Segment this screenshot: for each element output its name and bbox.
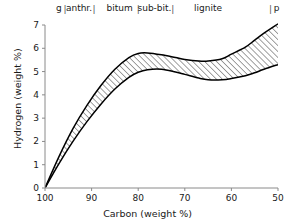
y-tick-label: 3 [25, 113, 39, 123]
y-axis-title: Hydrogen (weight %) [12, 48, 23, 149]
y-tick-label: 7 [25, 20, 39, 30]
y-tick-label: 0 [25, 183, 39, 193]
y-tick-label: 2 [25, 136, 39, 146]
x-tick-label: 100 [32, 193, 58, 203]
x-axis-title: Carbon (weight %) [0, 208, 295, 219]
y-tick-label: 5 [25, 67, 39, 77]
x-tick-label: 60 [218, 193, 244, 203]
upper-bound-curve [45, 24, 278, 188]
y-tick-label: 6 [25, 43, 39, 53]
plot-area [0, 0, 295, 222]
y-tick-label: 4 [25, 90, 39, 100]
x-tick-label: 90 [79, 193, 105, 203]
x-tick-label: 80 [125, 193, 151, 203]
hydrogen-carbon-chart: ganthr.bitumsub-bit.lignitep||||| 012345… [0, 0, 295, 222]
x-tick-label: 70 [172, 193, 198, 203]
x-tick-label: 50 [265, 193, 291, 203]
y-tick-label: 1 [25, 160, 39, 170]
